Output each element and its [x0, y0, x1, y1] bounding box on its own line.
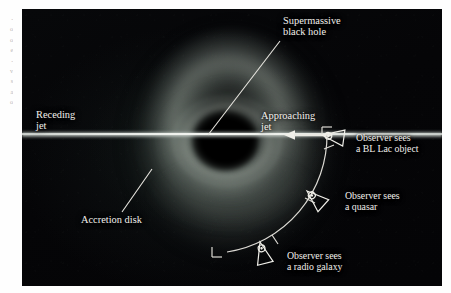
observer-icon-bl-lac [321, 127, 345, 146]
leader-line-accretion-disk [122, 169, 152, 212]
label-receding-jet: Receding jet [36, 109, 75, 132]
label-approaching-jet: Approaching jet [261, 110, 315, 133]
arc-tick-radio-galaxy [272, 235, 278, 244]
figure-page: - o o e - v s a o [0, 0, 451, 293]
arc-tick-bl-lac [324, 145, 334, 149]
label-observer-radio-galaxy: Observer sees a radio galaxy [287, 251, 343, 273]
label-observer-quasar: Observer sees a quasar [345, 191, 400, 213]
label-observer-bl-lac: Observer sees a BL Lac object [356, 133, 418, 155]
label-supermassive-black-hole: Supermassive black hole [283, 15, 341, 38]
margin-caption-text: - o o e - v s a o [0, 14, 13, 108]
diagram-image-plate: Supermassive black hole Receding jet App… [22, 9, 442, 286]
label-accretion-disk: Accretion disk [81, 214, 142, 225]
